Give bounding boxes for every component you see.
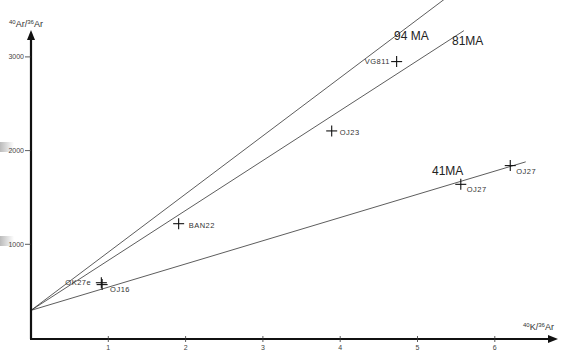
y-axis-arrow-icon — [27, 30, 35, 40]
point-label: BAN22 — [189, 221, 215, 230]
x-tick-label: 4 — [338, 344, 342, 351]
x-tick-label: 2 — [184, 344, 188, 351]
x-tick-label: 1 — [106, 344, 110, 351]
x-tick-label: 6 — [493, 344, 497, 351]
data-point: OJ27 — [505, 160, 536, 176]
isochron-label-41ma: 41MA — [432, 164, 463, 178]
y-tick-label: 3000 — [8, 53, 24, 60]
point-label: VG811 — [365, 57, 390, 66]
point-label: OJ27 — [516, 167, 536, 176]
point-label: OJ27 — [467, 185, 487, 194]
data-points: OK27eOJ16BAN22OJ23VG811OJ27OJ27 — [65, 56, 536, 294]
data-point: OK27e — [65, 277, 107, 288]
x-tick-label: 5 — [416, 344, 420, 351]
isochron-line-81ma — [31, 31, 464, 311]
y-tick-label: 2000 — [8, 147, 24, 154]
data-point: OJ23 — [326, 125, 359, 137]
isochron-label-81ma: 81MA — [452, 34, 483, 48]
point-label: OJ23 — [340, 128, 360, 137]
x-axis-arrow-icon — [548, 335, 558, 343]
y-axis-label: 40Ar/36Ar — [9, 19, 43, 29]
x-axis-label: 40K/36Ar — [523, 322, 554, 332]
data-point: OJ16 — [97, 279, 130, 294]
isochron-line-94ma — [31, 0, 456, 310]
y-ticks: 100020003000 — [8, 53, 31, 247]
point-label: OK27e — [65, 278, 91, 287]
x-tick-label: 3 — [261, 344, 265, 351]
point-label: OJ16 — [110, 285, 130, 294]
data-point: VG811 — [365, 56, 403, 67]
data-point: BAN22 — [173, 218, 215, 230]
isochron-line-41ma — [31, 162, 526, 311]
isochron-label-94ma: 94 MA — [394, 29, 429, 43]
isochron-chart: OK27eOJ16BAN22OJ23VG811OJ27OJ27 123456 1… — [0, 0, 570, 357]
y-tick-label: 1000 — [8, 241, 24, 248]
